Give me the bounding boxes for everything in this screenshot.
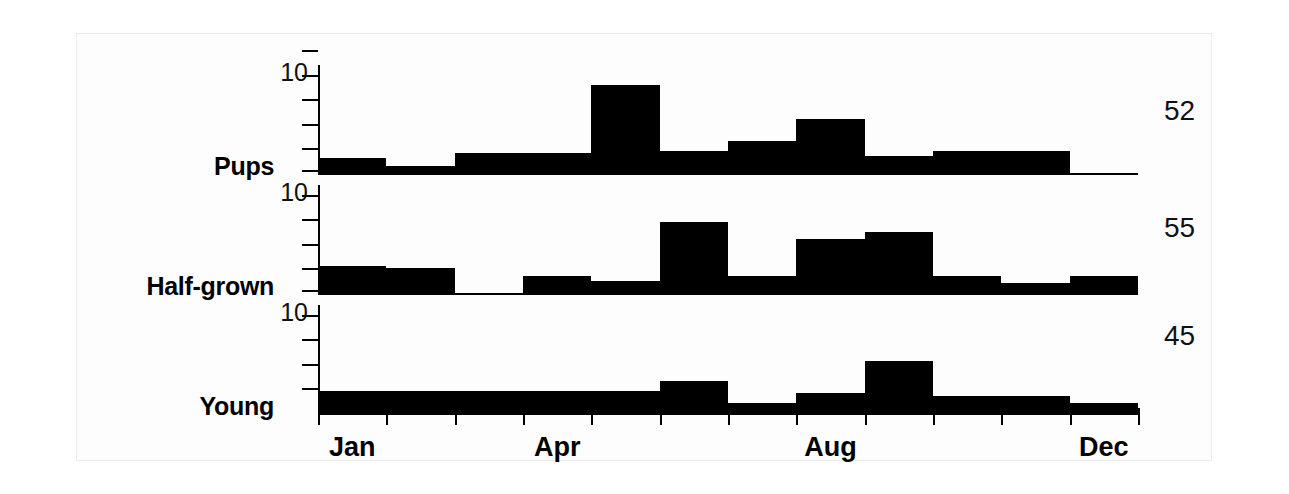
bar-pups-may xyxy=(591,85,659,173)
x-axis-label-jan: Jan xyxy=(329,432,376,463)
bar-half-grown-jul xyxy=(728,276,796,293)
panel-label-pups: Pups xyxy=(214,152,274,181)
bar-young-sep xyxy=(865,361,933,413)
y-axis-label-10-half-grown: 10 xyxy=(280,178,308,207)
plot-area-half-grown xyxy=(318,185,1138,295)
sample-size-half-grown: 55 xyxy=(1164,212,1195,244)
bar-half-grown-aug xyxy=(796,239,864,293)
plot-area-pups xyxy=(318,65,1138,175)
bar-half-grown-feb xyxy=(386,268,454,293)
x-tick-11 xyxy=(1070,408,1072,425)
panel-label-half-grown: Half-grown xyxy=(146,272,274,301)
bar-young-oct xyxy=(933,396,1001,413)
x-axis: JanAprAugDec xyxy=(318,408,1138,410)
x-axis-label-apr: Apr xyxy=(534,432,581,463)
bar-half-grown-apr xyxy=(523,276,591,293)
x-tick-1 xyxy=(386,408,388,425)
x-tick-3 xyxy=(523,408,525,425)
bar-half-grown-dec xyxy=(1070,276,1138,293)
x-tick-6 xyxy=(728,408,730,425)
bar-half-grown-oct xyxy=(933,276,1001,293)
bar-pups-jan xyxy=(318,158,386,173)
y-tick-half-grown-2 xyxy=(302,244,318,246)
panel-label-young: Young xyxy=(200,392,274,421)
baseline-half-grown xyxy=(318,293,1138,295)
x-tick-0 xyxy=(318,408,320,425)
x-tick-10 xyxy=(1001,408,1003,425)
bar-young-nov xyxy=(1001,396,1069,413)
bar-pups-mar xyxy=(455,153,523,173)
panel-half-grown: 10 Half-grown xyxy=(0,180,1289,300)
bar-pups-jun xyxy=(660,151,728,173)
bar-pups-nov xyxy=(1001,151,1069,173)
panel-young: 10 Young xyxy=(0,300,1289,420)
y-axis-label-10-pups: 10 xyxy=(280,58,308,87)
bar-series-pups xyxy=(318,65,1138,173)
y-tick-half-grown-4 xyxy=(302,195,318,197)
x-tick-4 xyxy=(591,408,593,425)
y-tick-young-1 xyxy=(302,388,318,390)
bar-pups-aug xyxy=(796,119,864,173)
bar-pups-apr xyxy=(523,153,591,173)
x-tick-2 xyxy=(455,408,457,425)
bar-pups-oct xyxy=(933,151,1001,173)
x-axis-label-dec: Dec xyxy=(1079,432,1129,463)
bar-pups-feb xyxy=(386,166,454,173)
y-tick-half-grown-1 xyxy=(302,268,318,270)
x-tick-7 xyxy=(796,408,798,425)
y-tick-young-4 xyxy=(302,315,318,317)
y-tick-pups-3 xyxy=(302,99,318,101)
bar-half-grown-jan xyxy=(318,266,386,293)
figure-canvas: 10 Pups 52 10 Half-grown 55 10 Young 45 xyxy=(0,0,1289,494)
y-tick-pups-5 xyxy=(302,50,318,52)
y-tick-half-grown-5 xyxy=(302,170,318,172)
bar-series-half-grown xyxy=(318,185,1138,293)
x-tick-5 xyxy=(660,408,662,425)
bar-series-young xyxy=(318,305,1138,413)
y-tick-pups-4 xyxy=(302,75,318,77)
baseline-pups xyxy=(318,173,1138,175)
sample-size-young: 45 xyxy=(1164,320,1195,352)
y-tick-young-5 xyxy=(302,290,318,292)
y-tick-young-2 xyxy=(302,364,318,366)
y-tick-pups-1 xyxy=(302,148,318,150)
bar-pups-sep xyxy=(865,156,933,173)
bar-young-aug xyxy=(796,393,864,413)
x-axis-label-aug: Aug xyxy=(804,432,856,463)
bar-half-grown-nov xyxy=(1001,283,1069,293)
x-tick-8 xyxy=(865,408,867,425)
panel-pups: 10 Pups xyxy=(0,60,1289,180)
y-axis-label-10-young: 10 xyxy=(280,298,308,327)
sample-size-pups: 52 xyxy=(1164,95,1195,127)
x-tick-12 xyxy=(1138,408,1140,425)
x-tick-9 xyxy=(933,408,935,425)
y-tick-young-3 xyxy=(302,339,318,341)
y-tick-pups-2 xyxy=(302,124,318,126)
plot-area-young xyxy=(318,305,1138,415)
bar-pups-jul xyxy=(728,141,796,173)
bar-half-grown-may xyxy=(591,281,659,293)
y-tick-half-grown-3 xyxy=(302,219,318,221)
bar-half-grown-sep xyxy=(865,232,933,293)
bar-half-grown-jun xyxy=(660,222,728,293)
